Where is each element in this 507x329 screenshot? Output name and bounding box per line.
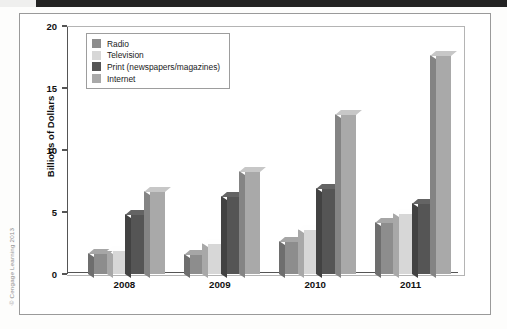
y-tick-label: 0 xyxy=(35,269,57,280)
plot-area xyxy=(67,26,464,274)
bar-top-face xyxy=(335,110,362,115)
bar[interactable] xyxy=(245,171,260,274)
y-axis-title: Billions of Dollars xyxy=(45,62,56,212)
bar-top-face xyxy=(430,51,457,56)
page-edge-artifact-left xyxy=(0,0,36,7)
page-edge-artifact xyxy=(36,0,507,7)
bar-top-face xyxy=(239,167,266,172)
bar-front-face xyxy=(245,171,260,274)
bar[interactable] xyxy=(341,114,356,274)
copyright-credit: © Cengage Learning 2013 xyxy=(8,225,15,309)
bar-group xyxy=(182,26,262,274)
bar-front-face xyxy=(341,114,356,274)
y-tick-label: 20 xyxy=(35,21,57,32)
bar[interactable] xyxy=(436,55,451,274)
bar-group xyxy=(277,26,357,274)
bar[interactable] xyxy=(150,191,165,274)
x-tick-label: 2010 xyxy=(304,279,326,290)
bar-top-face xyxy=(144,187,171,192)
bar-chart: 05101520 Billions of Dollars RadioTelevi… xyxy=(19,13,489,313)
bar-front-face xyxy=(436,55,451,274)
bar-front-face xyxy=(150,191,165,274)
bar-group xyxy=(86,26,166,274)
bar-group xyxy=(373,26,453,274)
figure-page: © Cengage Learning 2013 05101520 Billion… xyxy=(0,0,507,329)
x-tick-label: 2009 xyxy=(209,279,231,290)
x-tick-label: 2008 xyxy=(114,279,136,290)
x-tick-label: 2011 xyxy=(400,279,421,290)
